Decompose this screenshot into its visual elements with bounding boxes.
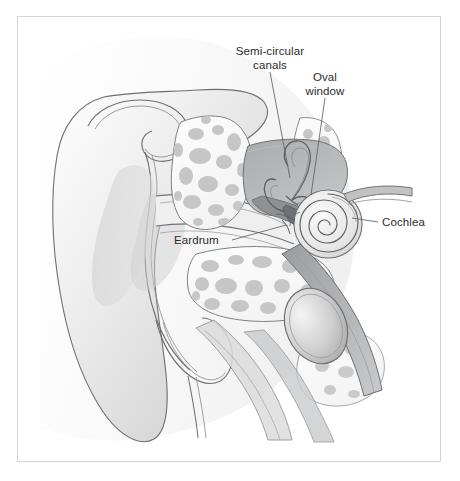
- ear-diagram-page: Semi-circular canals Oval window Eardrum…: [0, 0, 460, 481]
- label-oval-window-line2: window: [306, 85, 345, 97]
- label-cochlea-line1: Cochlea: [382, 216, 425, 228]
- label-semi-circular-canals: Semi-circular canals: [222, 44, 318, 72]
- label-oval-window: Oval window: [296, 70, 354, 98]
- label-cochlea: Cochlea: [382, 215, 425, 229]
- label-eardrum: Eardrum: [174, 233, 219, 247]
- label-eardrum-line1: Eardrum: [174, 234, 219, 246]
- label-semi-circular-canals-line2: canals: [253, 59, 287, 71]
- ear-anatomy-illustration: [0, 0, 460, 481]
- label-semi-circular-canals-line1: Semi-circular: [236, 45, 304, 57]
- label-oval-window-line1: Oval: [313, 71, 337, 83]
